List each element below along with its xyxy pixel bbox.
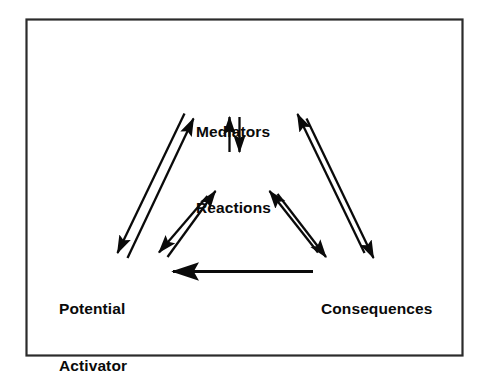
node-label-reactions-line-0: Reactions xyxy=(196,198,271,217)
node-label-potential-activator: Potential Activator xyxy=(59,261,127,375)
node-label-potential-activator-line-0: Potential xyxy=(59,299,127,318)
figure-root: Mediators Reactions Potential Activator … xyxy=(0,0,488,375)
node-label-potential-activator-line-1: Activator xyxy=(59,356,127,375)
node-label-reactions: Reactions xyxy=(196,160,271,255)
node-label-consequences-line-0: Consequences xyxy=(321,299,432,318)
node-label-mediators-line-0: Mediators xyxy=(196,122,270,141)
node-label-consequences: Consequences xyxy=(321,261,432,356)
